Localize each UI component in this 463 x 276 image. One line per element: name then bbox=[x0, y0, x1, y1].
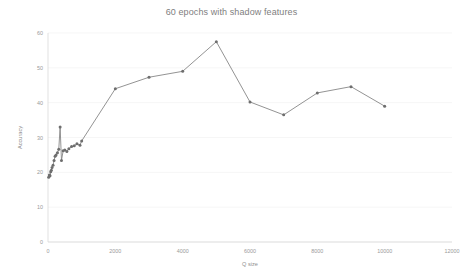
data-point-marker bbox=[65, 150, 68, 153]
data-point-marker bbox=[148, 76, 151, 79]
x-axis-title: Q size bbox=[242, 261, 258, 267]
svg-text:50: 50 bbox=[37, 65, 43, 71]
svg-text:0: 0 bbox=[47, 248, 50, 254]
svg-text:12000: 12000 bbox=[445, 248, 460, 254]
data-point-marker bbox=[181, 70, 184, 73]
svg-text:8000: 8000 bbox=[311, 248, 323, 254]
data-point-marker bbox=[75, 142, 78, 145]
svg-text:10: 10 bbox=[37, 204, 43, 210]
data-point-marker bbox=[70, 145, 73, 148]
svg-text:0: 0 bbox=[40, 239, 43, 245]
data-point-marker bbox=[57, 148, 60, 151]
svg-text:60: 60 bbox=[37, 30, 43, 36]
svg-text:40: 40 bbox=[37, 100, 43, 106]
svg-text:10000: 10000 bbox=[377, 248, 392, 254]
data-point-marker bbox=[49, 174, 52, 177]
data-series bbox=[47, 40, 386, 179]
data-point-marker bbox=[114, 87, 117, 90]
line-chart-plot: 0102030405060 02000400060008000100001200… bbox=[0, 0, 463, 276]
gridlines bbox=[48, 33, 452, 242]
x-axis-tick-labels: 020004000600080001000012000 bbox=[47, 248, 460, 254]
data-point-marker bbox=[80, 139, 83, 142]
data-point-marker bbox=[316, 91, 319, 94]
data-point-marker bbox=[282, 113, 285, 116]
data-point-marker bbox=[215, 40, 218, 43]
svg-text:2000: 2000 bbox=[109, 248, 121, 254]
data-point-marker bbox=[383, 105, 386, 108]
data-point-marker bbox=[50, 169, 53, 172]
data-point-marker bbox=[56, 151, 59, 154]
svg-text:20: 20 bbox=[37, 169, 43, 175]
data-point-marker bbox=[350, 85, 353, 88]
data-point-marker bbox=[52, 164, 55, 167]
data-point-marker bbox=[73, 144, 76, 147]
data-point-marker bbox=[60, 159, 63, 162]
series-line bbox=[49, 42, 385, 178]
y-axis-tick-labels: 0102030405060 bbox=[37, 30, 43, 245]
data-point-marker bbox=[53, 159, 56, 162]
svg-text:4000: 4000 bbox=[177, 248, 189, 254]
svg-text:30: 30 bbox=[37, 135, 43, 141]
chart-container: 60 epochs with shadow features 010203040… bbox=[0, 0, 463, 276]
data-point-marker bbox=[78, 144, 81, 147]
svg-text:6000: 6000 bbox=[244, 248, 256, 254]
data-point-marker bbox=[67, 147, 70, 150]
data-point-marker bbox=[59, 126, 62, 129]
data-point-marker bbox=[249, 100, 252, 103]
y-axis-title: Accuracy bbox=[17, 126, 23, 149]
